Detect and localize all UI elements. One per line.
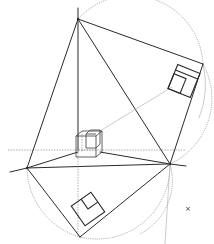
plan-square-top-right: [168, 64, 200, 97]
line-left-vp-to-cube: [27, 152, 78, 168]
ground-line-left-ext: [10, 168, 27, 172]
cube-top-right-edge: [96, 131, 102, 136]
construction-lines: [27, 19, 203, 244]
ground-line: [27, 164, 168, 168]
diagram-canvas: ×: [0, 0, 214, 244]
line-top-to-right-vp: [78, 19, 170, 164]
line-cube-to-right-vp: [100, 152, 170, 164]
cube-inner-notch: [86, 130, 100, 148]
line-top-to-left-vp: [27, 19, 78, 168]
upper-circle-arc: [78, 0, 212, 164]
line-left-vp-to-bottom: [27, 168, 80, 237]
lower-circle-arc: [27, 164, 170, 239]
line-cube-to-top-square: [100, 87, 172, 131]
cube: [76, 130, 102, 157]
line-top-to-right-top: [78, 19, 203, 64]
cross-marker: ×: [185, 205, 191, 213]
square-inner: [168, 74, 186, 94]
line-bottom-to-right-vp: [80, 164, 170, 237]
construction-circles: [27, 0, 212, 239]
horizon-lines: [8, 150, 186, 172]
square-outer: [168, 64, 200, 97]
left-vanishing-point: [26, 167, 28, 169]
ground-line-right-ext: [170, 164, 186, 166]
perspective-diagram: ×: [0, 0, 214, 244]
station-point: [77, 18, 79, 20]
square-inner-corner: [81, 192, 98, 209]
right-vanishing-point: [169, 163, 171, 165]
cube-outline: [76, 131, 102, 157]
line-right-vp-down: [165, 164, 170, 244]
